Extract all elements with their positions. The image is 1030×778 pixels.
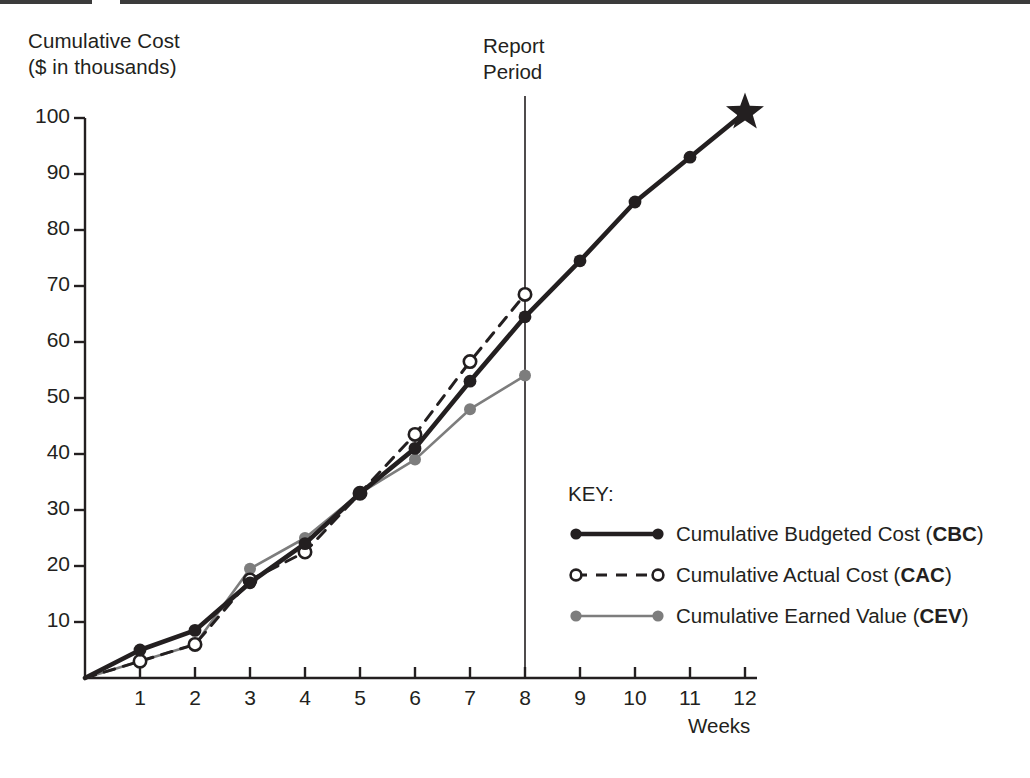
legend-marker xyxy=(653,569,664,580)
legend-label-cev: Cumulative Earned Value (CEV) xyxy=(676,604,968,628)
x-tick-label: 5 xyxy=(340,686,380,710)
data-point-cbc xyxy=(684,151,697,164)
data-point-cbc xyxy=(244,576,257,589)
legend-item-cev: Cumulative Earned Value (CEV) xyxy=(568,595,1018,636)
data-point-cbc xyxy=(464,375,477,388)
data-point-cev xyxy=(409,454,421,466)
x-tick-label: 3 xyxy=(230,686,270,710)
legend-marker xyxy=(570,528,581,539)
y-tick-label: 20 xyxy=(12,552,70,576)
x-tick-label: 11 xyxy=(670,686,710,710)
x-tick-label: 6 xyxy=(395,686,435,710)
x-tick-label: 4 xyxy=(285,686,325,710)
legend-label-cbc: Cumulative Budgeted Cost (CBC) xyxy=(676,522,984,546)
legend-item-cac: Cumulative Actual Cost (CAC) xyxy=(568,554,1018,595)
chart-legend: KEY: Cumulative Budgeted Cost (CBC)Cumul… xyxy=(568,482,1018,636)
y-tick-label: 10 xyxy=(12,608,70,632)
data-point-cbc xyxy=(354,487,367,500)
legend-item-cbc: Cumulative Budgeted Cost (CBC) xyxy=(568,513,1018,554)
y-tick-label: 90 xyxy=(12,160,70,184)
x-tick-label: 2 xyxy=(175,686,215,710)
chart-page: Cumulative Cost ($ in thousands) Report … xyxy=(0,0,1030,778)
y-tick-label: 70 xyxy=(12,272,70,296)
y-tick-label: 60 xyxy=(12,328,70,352)
data-point-cev xyxy=(519,370,531,382)
legend-abbr: CBC xyxy=(932,522,976,545)
legend-abbr: CAC xyxy=(900,563,944,586)
y-tick-label: 50 xyxy=(12,384,70,408)
y-tick-label: 80 xyxy=(12,216,70,240)
data-point-cbc xyxy=(409,442,422,455)
data-point-cac xyxy=(464,355,476,367)
legend-swatch-cev xyxy=(568,606,666,626)
x-axis-title: Weeks xyxy=(688,714,750,738)
data-point-cbc xyxy=(299,537,312,550)
data-point-cac xyxy=(134,655,146,667)
legend-title: KEY: xyxy=(568,482,1018,506)
legend-marker xyxy=(652,528,663,539)
x-tick-label: 1 xyxy=(120,686,160,710)
legend-marker xyxy=(571,569,582,580)
legend-label-cac: Cumulative Actual Cost (CAC) xyxy=(676,563,952,587)
chart-plot-area xyxy=(0,0,1030,778)
x-tick-label: 7 xyxy=(450,686,490,710)
x-tick-label: 9 xyxy=(560,686,600,710)
legend-marker xyxy=(570,610,581,621)
y-tick-label: 100 xyxy=(12,104,70,128)
series-line-cev xyxy=(85,376,525,678)
x-tick-label: 10 xyxy=(615,686,655,710)
legend-swatch-cac xyxy=(568,565,666,585)
data-point-cbc xyxy=(519,310,532,323)
data-point-cac xyxy=(189,638,201,650)
data-point-cbc xyxy=(574,254,587,267)
data-point-cac xyxy=(519,288,531,300)
x-tick-label: 8 xyxy=(505,686,545,710)
data-point-cbc xyxy=(189,624,202,637)
data-point-cac xyxy=(409,428,421,440)
y-tick-label: 30 xyxy=(12,496,70,520)
legend-abbr: CEV xyxy=(919,604,961,627)
legend-marker xyxy=(652,610,663,621)
y-tick-label: 40 xyxy=(12,440,70,464)
data-point-cev xyxy=(464,403,476,415)
x-tick-label: 12 xyxy=(725,686,765,710)
data-point-cbc xyxy=(134,644,147,657)
series-line-cac xyxy=(85,294,525,678)
data-point-cbc xyxy=(629,196,642,209)
legend-swatch-cbc xyxy=(568,524,666,544)
